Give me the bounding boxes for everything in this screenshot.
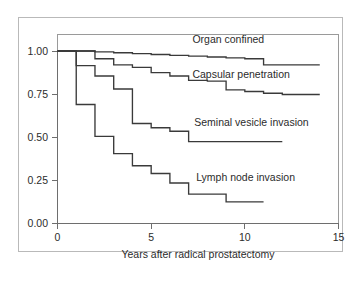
y-tick-label-1-00: 1.00 [28, 45, 49, 57]
series-label-seminal-vesicle-invasion: Seminal vesicle invasion [194, 116, 309, 128]
curve-organ-confined [58, 51, 320, 65]
x-axis-ticks [58, 224, 339, 230]
series-label-lymph-node-invasion: Lymph node invasion [196, 171, 295, 183]
x-tick-label-10: 10 [239, 231, 251, 243]
survival-curve-chart: 1.00 0.75 0.50 0.25 0.00 0 5 10 15 Years… [0, 0, 361, 281]
y-tick-label-0-25: 0.25 [28, 174, 49, 186]
y-tick-label-0-75: 0.75 [28, 88, 49, 100]
x-tick-label-5: 5 [148, 231, 154, 243]
x-axis-title: Years after radical prostatectomy [121, 248, 275, 260]
kaplan-meier-survival-figure: 1.00 0.75 0.50 0.25 0.00 0 5 10 15 Years… [0, 0, 361, 281]
x-tick-label-15: 15 [333, 231, 345, 243]
y-tick-label-0-00: 0.00 [28, 217, 49, 229]
y-axis-ticks [52, 52, 58, 224]
series-label-capsular-penetration: Capsular penetration [192, 68, 290, 80]
y-tick-label-0-50: 0.50 [28, 131, 49, 143]
x-axis-tick-labels: 0 5 10 15 [55, 231, 345, 243]
figure-frame [19, 18, 343, 252]
plot-area-border [58, 35, 339, 224]
series-labels: Organ confined Capsular penetration Semi… [192, 33, 308, 183]
series-label-organ-confined: Organ confined [192, 33, 264, 45]
y-axis-tick-labels: 1.00 0.75 0.50 0.25 0.00 [28, 45, 49, 229]
x-tick-label-0: 0 [55, 231, 61, 243]
